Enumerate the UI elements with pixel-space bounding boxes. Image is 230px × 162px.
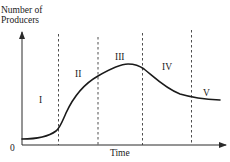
- x-axis-label: Time: [110, 148, 130, 158]
- stage-label-2: II: [75, 69, 81, 79]
- stage-boundaries: [59, 30, 192, 145]
- stage-label-5: V: [203, 88, 210, 98]
- stage-label-1: I: [39, 95, 42, 105]
- stage-label-3: III: [115, 52, 125, 62]
- y-axis-label-line2: Producers: [1, 15, 39, 25]
- stage-label-4: IV: [162, 62, 172, 72]
- y-axis-label-line1: Number of: [1, 5, 42, 15]
- origin-label: 0: [10, 143, 15, 153]
- producers-curve: [22, 64, 220, 139]
